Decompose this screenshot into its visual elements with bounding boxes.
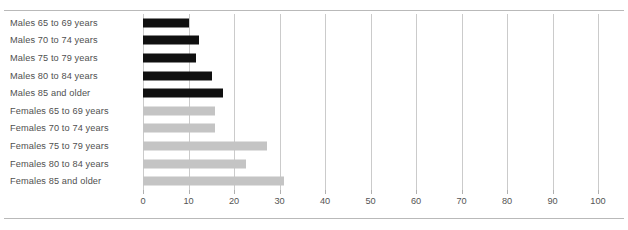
bar [143, 141, 267, 150]
category-label: Females 70 to 74 years [10, 123, 109, 133]
x-tick [553, 190, 554, 194]
bar-row: Males 65 to 69 years [0, 14, 628, 32]
x-tick [416, 190, 417, 194]
x-tick-label: 20 [229, 196, 239, 206]
category-label: Females 80 to 84 years [10, 159, 109, 169]
bar-row: Males 80 to 84 years [0, 67, 628, 85]
x-tick [598, 190, 599, 194]
plot-area: Males 65 to 69 yearsMales 70 to 74 years… [0, 14, 628, 190]
bar-row: Males 85 and older [0, 84, 628, 102]
category-label: Males 70 to 74 years [10, 35, 98, 45]
x-tick-label: 100 [590, 196, 605, 206]
x-tick [189, 190, 190, 194]
category-label: Females 75 to 79 years [10, 141, 109, 151]
x-tick-label: 70 [456, 196, 466, 206]
x-tick-label: 90 [547, 196, 557, 206]
x-tick [507, 190, 508, 194]
x-tick-label: 40 [320, 196, 330, 206]
category-label: Females 85 and older [10, 176, 101, 186]
x-tick [143, 190, 144, 194]
chart-figure: Males 65 to 69 yearsMales 70 to 74 years… [0, 0, 628, 230]
bar [143, 53, 196, 62]
bar-row: Females 80 to 84 years [0, 155, 628, 173]
x-tick [234, 190, 235, 194]
bar [143, 18, 189, 27]
bar [143, 71, 212, 80]
bar [143, 159, 246, 168]
bar [143, 36, 199, 45]
x-tick [325, 190, 326, 194]
bar-row: Females 65 to 69 years [0, 102, 628, 120]
category-label: Females 65 to 69 years [10, 106, 109, 116]
category-label: Males 85 and older [10, 88, 90, 98]
x-tick-label: 0 [140, 196, 145, 206]
x-tick-label: 50 [365, 196, 375, 206]
x-tick [462, 190, 463, 194]
x-tick-label: 60 [411, 196, 421, 206]
bottom-rule [4, 218, 624, 219]
category-label: Males 75 to 79 years [10, 53, 98, 63]
top-rule [4, 10, 624, 11]
x-tick-label: 30 [274, 196, 284, 206]
x-tick [371, 190, 372, 194]
bar-row: Females 85 and older [0, 172, 628, 190]
category-label: Males 65 to 69 years [10, 18, 98, 28]
bar-row: Females 70 to 74 years [0, 120, 628, 138]
bar-row: Males 70 to 74 years [0, 32, 628, 50]
bar [143, 177, 284, 186]
bar-row: Females 75 to 79 years [0, 137, 628, 155]
x-tick-label: 80 [502, 196, 512, 206]
bar-rows: Males 65 to 69 yearsMales 70 to 74 years… [0, 14, 628, 190]
x-tick [280, 190, 281, 194]
bar [143, 106, 215, 115]
x-tick-label: 10 [183, 196, 193, 206]
category-label: Males 80 to 84 years [10, 71, 98, 81]
bar-row: Males 75 to 79 years [0, 49, 628, 67]
bar [143, 89, 223, 98]
bar [143, 124, 215, 133]
